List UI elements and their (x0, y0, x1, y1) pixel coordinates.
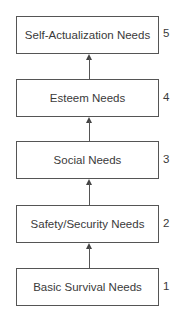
level-box-safety-security: Safety/Security Needs (16, 205, 159, 243)
connector-arrow (89, 247, 90, 268)
level-number: 5 (163, 27, 169, 39)
level-box-self-actualization: Self-Actualization Needs (16, 16, 159, 54)
connector-arrow (89, 58, 90, 79)
level-label: Basic Survival Needs (33, 281, 142, 293)
connector-arrow (89, 183, 90, 205)
level-number: 3 (163, 153, 169, 165)
level-number: 4 (163, 91, 169, 103)
level-number: 2 (163, 217, 169, 229)
level-number: 1 (163, 280, 169, 292)
level-box-esteem: Esteem Needs (16, 79, 159, 117)
level-box-basic-survival: Basic Survival Needs (16, 268, 159, 306)
level-label: Safety/Security Needs (31, 218, 145, 230)
level-label: Esteem Needs (50, 92, 125, 104)
level-label: Social Needs (54, 154, 122, 166)
level-box-social: Social Needs (16, 141, 159, 179)
level-label: Self-Actualization Needs (25, 29, 150, 41)
connector-arrow (89, 121, 90, 141)
